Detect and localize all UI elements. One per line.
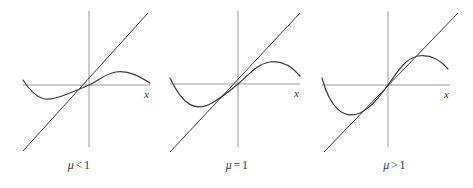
- panel-mu-equals-1: x μ=1: [158, 0, 316, 188]
- identity-line: [324, 13, 458, 152]
- panel-1-caption: μ<1: [0, 158, 158, 173]
- caption-relation: =: [232, 158, 242, 172]
- caption-value: 1: [84, 158, 90, 172]
- panel-mu-greater-than-1: x μ>1: [316, 0, 473, 188]
- caption-symbol: μ: [383, 158, 389, 172]
- identity-line: [23, 13, 148, 151]
- bifurcation-figure: x μ<1 x μ=1 x μ>1: [0, 0, 473, 188]
- panel-2-caption: μ=1: [158, 158, 316, 173]
- x-axis-label: x: [143, 88, 149, 100]
- identity-line: [170, 13, 300, 152]
- panel-mu-less-than-1: x μ<1: [0, 0, 158, 188]
- caption-value: 1: [400, 158, 406, 172]
- caption-relation: >: [390, 158, 400, 172]
- caption-value: 1: [242, 158, 248, 172]
- x-axis-label: x: [293, 87, 299, 99]
- caption-relation: <: [74, 158, 84, 172]
- panel-3-caption: μ>1: [316, 158, 473, 173]
- x-axis-label: x: [443, 88, 449, 100]
